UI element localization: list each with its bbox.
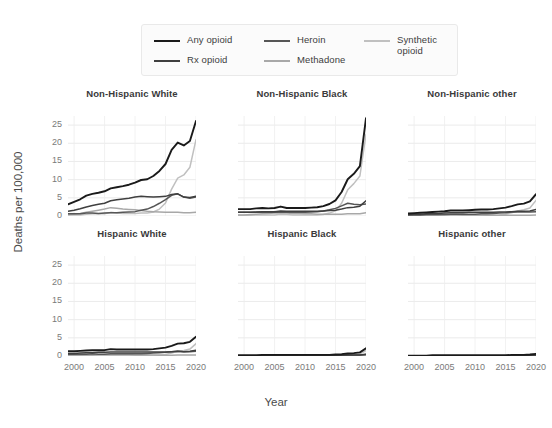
chart-legend: Any opioidRx opioidHeroinMethadoneSynthe… [141,24,458,76]
panel-plot-hispanic-other [408,256,536,356]
series-line-any-opioid [238,118,366,209]
legend-item-heroin: Heroin [264,34,326,50]
legend-label: Methadone [297,54,345,65]
legend-item-any-opioid: Any opioid [154,34,232,50]
opioid-death-rate-faceted-chart: Any opioidRx opioidHeroinMethadoneSynthe… [0,0,552,428]
x-axis-tick-label: 2005 [259,362,291,372]
legend-label: Heroin [297,34,326,45]
x-axis-tick-label: 2010 [119,362,151,372]
x-axis-tick-label: 2005 [89,362,121,372]
y-axis-title: Deaths per 100,000 [12,112,24,292]
x-axis-tick-label: 2000 [58,362,90,372]
legend-label: Synthetic opioid [397,34,437,56]
x-axis-tick-label: 2020 [520,362,552,372]
y-axis-tick-label: 15 [40,155,62,165]
legend-item-methadone: Methadone [264,54,345,70]
y-axis-tick-label: 0 [40,210,62,220]
legend-swatch-line-icon [154,60,180,62]
x-axis-tick-label: 2000 [398,362,430,372]
x-axis-tick-label: 2015 [150,362,182,372]
panel-title-hispanic-black: Hispanic Black [238,228,366,239]
y-axis-tick-label: 0 [40,350,62,360]
series-line-any-opioid [68,337,196,352]
y-axis-tick-label: 5 [40,192,62,202]
x-axis-tick-label: 2020 [350,362,382,372]
legend-swatch-line-icon [264,40,290,42]
series-line-rx-opioid [238,201,366,213]
panel-plot-hispanic-black [238,256,366,356]
x-axis-tick-label: 2010 [459,362,491,372]
panel-title-non-hispanic-white: Non-Hispanic White [68,88,196,99]
panel-plot-hispanic-white [68,256,196,356]
y-axis-tick-label: 15 [40,295,62,305]
panel-plot-non-hispanic-white [68,116,196,216]
y-axis-tick-label: 5 [40,332,62,342]
y-axis-tick-label: 10 [40,174,62,184]
series-line-rx-opioid [68,194,196,211]
series-line-any-opioid [68,121,196,204]
y-axis-tick-label: 25 [40,259,62,269]
legend-item-synthetic-opioid: Synthetic opioid [364,34,437,50]
x-axis-tick-label: 2015 [490,362,522,372]
x-axis-tick-label: 2000 [228,362,260,372]
legend-swatch-line-icon [264,60,290,62]
legend-label: Any opioid [187,34,232,45]
legend-swatch-line-icon [364,40,390,42]
panel-title-non-hispanic-black: Non-Hispanic Black [238,88,366,99]
x-axis-tick-label: 2010 [289,362,321,372]
series-line-heroin [68,194,196,214]
legend-item-rx-opioid: Rx opioid [154,54,228,70]
series-line-any-opioid [238,348,366,355]
y-axis-tick-label: 10 [40,314,62,324]
panel-plot-non-hispanic-other [408,116,536,216]
x-axis-tick-label: 2005 [429,362,461,372]
series-line-synthetic-opioid [68,140,196,215]
y-axis-tick-label: 20 [40,277,62,287]
y-axis-tick-label: 25 [40,119,62,129]
panel-plot-non-hispanic-black [238,116,366,216]
x-axis-tick-label: 2015 [320,362,352,372]
x-axis-tick-label: 2020 [180,362,212,372]
legend-label: Rx opioid [187,54,228,65]
panel-title-hispanic-white: Hispanic White [68,228,196,239]
series-line-any-opioid [408,354,536,356]
legend-swatch-line-icon [154,40,180,42]
panel-title-hispanic-other: Hispanic other [408,228,536,239]
y-axis-tick-label: 20 [40,137,62,147]
panel-title-non-hispanic-other: Non-Hispanic other [408,88,536,99]
x-axis-title: Year [0,396,552,408]
